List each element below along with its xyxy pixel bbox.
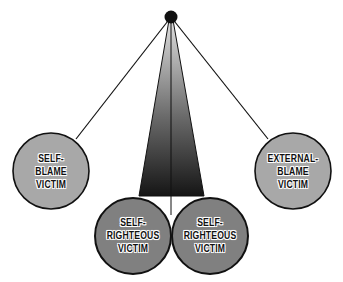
diagram-canvas <box>0 0 343 282</box>
pivot-point <box>165 11 178 24</box>
label-line: RIGHTEOUS <box>179 229 241 242</box>
label-self-righteous-left: SELF- RIGHTEOUS VICTIM <box>102 216 164 255</box>
label-line: SELF- <box>102 216 164 229</box>
label-external-blame: EXTERNAL- BLAME VICTIM <box>262 152 324 191</box>
label-line: VICTIM <box>20 178 82 191</box>
label-line: VICTIM <box>262 178 324 191</box>
label-line: VICTIM <box>102 242 164 255</box>
pendulum-diagram: SELF- BLAME VICTIM SELF- RIGHTEOUS VICTI… <box>0 0 343 282</box>
label-line: EXTERNAL- <box>262 152 324 165</box>
label-line: SELF- <box>20 152 82 165</box>
label-line: SELF- <box>179 216 241 229</box>
label-self-righteous-right: SELF- RIGHTEOUS VICTIM <box>179 216 241 255</box>
label-line: BLAME <box>20 165 82 178</box>
label-line: VICTIM <box>179 242 241 255</box>
label-line: RIGHTEOUS <box>102 229 164 242</box>
label-self-blame: SELF- BLAME VICTIM <box>20 152 82 191</box>
label-line: BLAME <box>262 165 324 178</box>
